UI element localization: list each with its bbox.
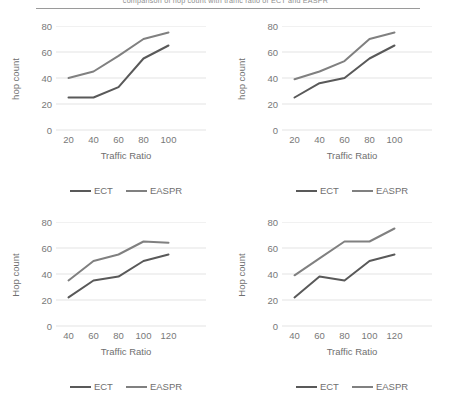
chart-panel-top-left: hop count 020406080 20406080100 Traffic … (0, 14, 226, 210)
legend-entry-easpr[interactable]: EASPR (352, 186, 408, 196)
y-tick-label: 40 (41, 73, 52, 84)
x-axis-ticks: 406080100120 (56, 330, 206, 344)
legend-line-swatch (70, 386, 91, 388)
x-tick-label: 100 (161, 134, 177, 145)
horizontal-rule (36, 8, 420, 9)
series-line-ect (295, 255, 395, 298)
y-tick-label: 40 (267, 269, 278, 280)
y-axis-ticks: 020406080 (252, 222, 278, 326)
y-axis-ticks: 020406080 (26, 26, 52, 130)
y-tick-label: 20 (41, 295, 52, 306)
x-tick-label: 60 (88, 330, 99, 341)
legend-entry-ect[interactable]: ECT (296, 382, 339, 392)
x-tick-label: 20 (289, 134, 300, 145)
x-axis-title: Traffic Ratio (36, 150, 216, 161)
plot-wrapper: Hop count 020406080 406080100120 Traffic… (226, 210, 451, 368)
legend-line-swatch (352, 386, 373, 388)
y-axis-ticks: 020406080 (26, 222, 52, 326)
x-axis-ticks: 406080100120 (282, 330, 432, 344)
y-tick-label: 60 (41, 47, 52, 58)
chart-panel-top-right: hop count 020406080 20406080100 Traffic … (226, 14, 451, 210)
x-tick-label: 80 (113, 330, 124, 341)
legend-label: ECT (320, 186, 339, 196)
y-tick-label: 80 (267, 217, 278, 228)
y-tick-label: 20 (267, 99, 278, 110)
x-axis-title: Traffic Ratio (262, 150, 442, 161)
legend-label: ECT (94, 382, 113, 392)
x-tick-label: 120 (161, 330, 177, 341)
plot-area (56, 26, 206, 130)
x-tick-label: 120 (387, 330, 403, 341)
x-tick-label: 80 (138, 134, 149, 145)
x-axis-title: Traffic Ratio (36, 346, 216, 357)
legend-line-swatch (70, 190, 91, 192)
plot-area (282, 26, 432, 130)
x-tick-label: 40 (314, 134, 325, 145)
x-tick-label: 80 (339, 330, 350, 341)
legend-entry-easpr[interactable]: EASPR (126, 382, 182, 392)
plot-svg (282, 222, 432, 328)
y-tick-label: 0 (273, 321, 278, 332)
y-tick-label: 0 (273, 125, 278, 136)
series-line-ect (295, 46, 395, 98)
x-tick-label: 20 (63, 134, 74, 145)
legend-label: EASPR (150, 382, 182, 392)
plot-wrapper: Hop count 020406080 406080100120 Traffic… (0, 210, 226, 368)
x-tick-label: 40 (289, 330, 300, 341)
chart-panel-bottom-right: Hop count 020406080 406080100120 Traffic… (226, 210, 451, 404)
chart-grid: hop count 020406080 20406080100 Traffic … (0, 14, 451, 404)
y-tick-label: 60 (41, 243, 52, 254)
plot-svg (282, 26, 432, 132)
chart-legend: ECTEASPR (262, 382, 442, 392)
legend-line-swatch (296, 190, 317, 192)
x-tick-label: 100 (362, 330, 378, 341)
x-tick-label: 100 (136, 330, 152, 341)
y-tick-label: 0 (47, 321, 52, 332)
figure-page: comparison of hop count with traffic rat… (0, 0, 451, 404)
y-tick-label: 40 (41, 269, 52, 280)
y-axis-ticks: 020406080 (252, 26, 278, 130)
legend-label: EASPR (150, 186, 182, 196)
y-tick-label: 0 (47, 125, 52, 136)
legend-entry-ect[interactable]: ECT (296, 186, 339, 196)
legend-entry-ect[interactable]: ECT (70, 186, 113, 196)
y-tick-label: 80 (41, 21, 52, 32)
series-line-easpr (69, 242, 169, 281)
y-tick-label: 40 (267, 73, 278, 84)
chart-legend: ECTEASPR (36, 382, 216, 392)
series-line-easpr (295, 229, 395, 276)
x-axis-ticks: 20406080100 (282, 134, 432, 148)
legend-label: ECT (320, 382, 339, 392)
legend-entry-easpr[interactable]: EASPR (126, 186, 182, 196)
y-tick-label: 80 (267, 21, 278, 32)
legend-line-swatch (126, 190, 147, 192)
series-line-ect (69, 255, 169, 298)
legend-label: EASPR (376, 382, 408, 392)
plot-wrapper: hop count 020406080 20406080100 Traffic … (0, 14, 226, 174)
series-line-easpr (69, 33, 169, 79)
chart-legend: ECTEASPR (36, 186, 216, 196)
x-axis-ticks: 20406080100 (56, 134, 206, 148)
y-tick-label: 20 (41, 99, 52, 110)
plot-svg (56, 222, 206, 328)
legend-line-swatch (352, 190, 373, 192)
x-axis-title: Traffic Ratio (262, 346, 442, 357)
y-axis-title: Hop count (10, 238, 21, 312)
legend-label: EASPR (376, 186, 408, 196)
x-tick-label: 100 (387, 134, 403, 145)
legend-line-swatch (126, 386, 147, 388)
chart-panel-bottom-left: Hop count 020406080 406080100120 Traffic… (0, 210, 226, 404)
plot-area (56, 222, 206, 326)
x-tick-label: 60 (113, 134, 124, 145)
plot-wrapper: hop count 020406080 20406080100 Traffic … (226, 14, 451, 174)
legend-entry-easpr[interactable]: EASPR (352, 382, 408, 392)
series-line-ect (69, 46, 169, 98)
x-tick-label: 60 (314, 330, 325, 341)
chart-legend: ECTEASPR (262, 186, 442, 196)
legend-entry-ect[interactable]: ECT (70, 382, 113, 392)
series-line-easpr (295, 33, 395, 80)
legend-label: ECT (94, 186, 113, 196)
y-tick-label: 60 (267, 243, 278, 254)
x-tick-label: 60 (339, 134, 350, 145)
plot-svg (56, 26, 206, 132)
